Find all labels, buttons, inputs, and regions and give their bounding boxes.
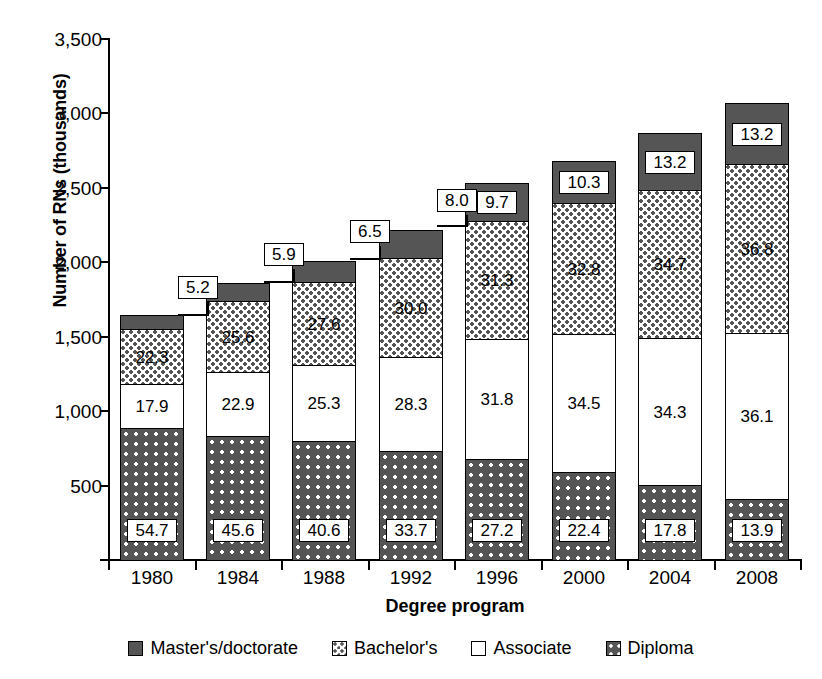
legend-item-masters[interactable]: Master's/doctorate	[128, 638, 298, 659]
segment-label-masters-2000: 10.3	[559, 171, 608, 194]
segment-label-bachelors-1980: 22.3	[135, 349, 168, 366]
segment-label-diploma-1988: 40.6	[299, 519, 348, 542]
segment-label-diploma-1996: 27.2	[472, 519, 521, 542]
segment-label-diploma-1984: 45.6	[213, 519, 262, 542]
segment-bachelors-2000: 32.8	[553, 203, 615, 334]
bar-1984[interactable]: 25.6 22.9 45.6	[206, 283, 270, 561]
segment-masters-1980	[121, 316, 183, 329]
callout-leader-1988	[350, 258, 381, 260]
x-tick-1984: 1984	[196, 568, 280, 587]
segment-label-bachelors-2004: 34.7	[653, 256, 686, 273]
segment-label-diploma-1980: 54.7	[127, 519, 176, 542]
bar-1996[interactable]: 9.7 31.3 31.8 27.2	[465, 183, 529, 561]
x-tick-2004: 2004	[628, 568, 712, 587]
segment-label-bachelors-2000: 32.8	[567, 261, 600, 278]
legend-swatch-diploma-icon	[606, 641, 621, 656]
x-tick-2000: 2000	[542, 568, 626, 587]
segment-label-associate-1980: 17.9	[135, 398, 168, 415]
segment-associate-2000: 34.5	[553, 334, 615, 472]
segment-diploma-1992: 33.7	[380, 451, 442, 560]
segment-label-associate-1992: 28.3	[394, 396, 427, 413]
bar-1992[interactable]: 30.0 28.3 33.7	[379, 230, 443, 561]
segment-label-associate-1988: 25.3	[307, 395, 340, 412]
segment-label-bachelors-2008: 36.8	[740, 241, 773, 258]
segment-diploma-2000: 22.4	[553, 472, 615, 560]
segment-associate-2008: 36.1	[726, 333, 788, 499]
segment-bachelors-1980: 22.3	[121, 329, 183, 384]
segment-label-associate-2008: 36.1	[740, 408, 773, 425]
bar-2004[interactable]: 13.2 34.7 34.3 17.8	[638, 133, 702, 561]
segment-label-diploma-2004: 17.8	[645, 519, 694, 542]
legend-label-bachelors: Bachelor's	[354, 638, 437, 659]
callout-masters-1984: 5.9	[264, 243, 304, 266]
segment-diploma-1980: 54.7	[121, 428, 183, 560]
x-tick-1996: 1996	[455, 568, 539, 587]
legend-item-associate[interactable]: Associate	[471, 638, 571, 659]
segment-label-masters-2004: 13.2	[645, 151, 694, 174]
bar-1980[interactable]: 22.3 17.9 54.7	[120, 315, 184, 561]
chart-legend: Master's/doctorate Bachelor's Associate …	[0, 638, 822, 659]
x-tick-1980: 1980	[110, 568, 194, 587]
x-axis-title: Degree program	[108, 596, 802, 617]
stacked-bar-chart: Number of RNs (thousands) 3,500 3,000 2,…	[0, 0, 822, 679]
legend-label-masters: Master's/doctorate	[150, 638, 298, 659]
segment-associate-1988: 25.3	[293, 365, 355, 441]
legend-item-diploma[interactable]: Diploma	[606, 638, 694, 659]
legend-label-diploma: Diploma	[628, 638, 694, 659]
bar-2000[interactable]: 10.3 32.8 34.5 22.4	[552, 161, 616, 561]
legend-label-associate: Associate	[493, 638, 571, 659]
segment-label-bachelors-1996: 31.3	[480, 272, 513, 289]
segment-label-masters-1996: 9.7	[477, 191, 517, 214]
callout-masters-1980: 5.2	[178, 276, 218, 299]
legend-swatch-masters-icon	[128, 641, 143, 656]
segment-label-bachelors-1984: 25.6	[221, 329, 254, 346]
segment-bachelors-1984: 25.6	[207, 301, 269, 372]
segment-label-associate-1996: 31.8	[480, 391, 513, 408]
segment-label-bachelors-1992: 30.0	[394, 300, 427, 317]
segment-bachelors-1988: 27.6	[293, 282, 355, 365]
segment-masters-2000: 10.3	[553, 162, 615, 203]
segment-label-diploma-1992: 33.7	[386, 519, 435, 542]
x-tick-1988: 1988	[282, 568, 366, 587]
segment-bachelors-1992: 30.0	[380, 258, 442, 357]
legend-swatch-bachelors-icon	[332, 641, 347, 656]
bar-2008[interactable]: 13.2 36.8 36.1 13.9	[725, 103, 789, 561]
segment-associate-2004: 34.3	[639, 338, 701, 485]
segment-masters-2008: 13.2	[726, 104, 788, 164]
segment-masters-2004: 13.2	[639, 134, 701, 190]
segment-diploma-1984: 45.6	[207, 436, 269, 560]
x-tick-2008: 2008	[715, 568, 799, 587]
segment-label-bachelors-1988: 27.6	[307, 316, 340, 333]
segment-bachelors-2008: 36.8	[726, 164, 788, 333]
segment-label-associate-2000: 34.5	[567, 395, 600, 412]
legend-swatch-associate-icon	[471, 641, 486, 656]
segment-diploma-2008: 13.9	[726, 499, 788, 560]
segment-diploma-2004: 17.8	[639, 485, 701, 560]
segment-bachelors-1996: 31.3	[466, 221, 528, 339]
callout-masters-1992: 8.0	[437, 189, 477, 212]
bar-1988[interactable]: 27.6 25.3 40.6	[292, 261, 356, 561]
segment-label-associate-1984: 22.9	[221, 396, 254, 413]
segment-label-associate-2004: 34.3	[653, 404, 686, 421]
segment-diploma-1988: 40.6	[293, 441, 355, 560]
callout-leader-1980	[178, 314, 209, 316]
segment-bachelors-2004: 34.7	[639, 190, 701, 338]
segment-label-masters-2008: 13.2	[732, 123, 781, 146]
segment-associate-1980: 17.9	[121, 384, 183, 428]
segment-associate-1996: 31.8	[466, 339, 528, 459]
segment-label-diploma-2000: 22.4	[559, 519, 608, 542]
segment-label-diploma-2008: 13.9	[732, 519, 781, 542]
segment-diploma-1996: 27.2	[466, 459, 528, 560]
x-tick-1992: 1992	[369, 568, 453, 587]
callout-leader-1992	[437, 225, 468, 227]
legend-item-bachelors[interactable]: Bachelor's	[332, 638, 437, 659]
segment-associate-1992: 28.3	[380, 357, 442, 451]
callout-leader-1984	[264, 281, 295, 283]
segment-associate-1984: 22.9	[207, 372, 269, 436]
callout-masters-1988: 6.5	[350, 220, 390, 243]
